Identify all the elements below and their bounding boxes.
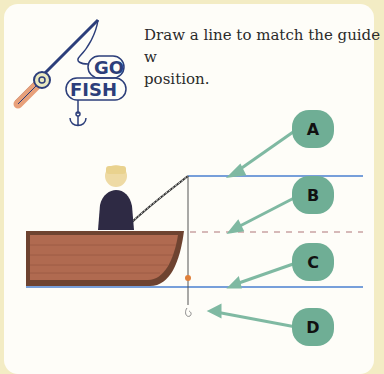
label-d: D — [292, 308, 334, 346]
label-b: B — [292, 176, 334, 214]
label-c: C — [292, 243, 334, 281]
boy-body — [98, 190, 134, 230]
hook-icon — [186, 308, 192, 316]
label-a: A — [292, 110, 334, 148]
bobber-icon — [185, 275, 191, 281]
